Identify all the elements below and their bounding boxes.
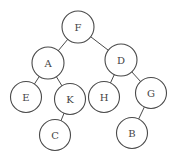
node-label: K xyxy=(66,94,74,105)
tree-node-a: A xyxy=(32,47,64,79)
tree-node-g: G xyxy=(136,78,167,109)
tree-node-f: F xyxy=(62,11,94,43)
node-label: G xyxy=(147,88,155,99)
tree-node-b: B xyxy=(117,118,148,149)
node-label: B xyxy=(128,128,135,139)
node-label: E xyxy=(22,92,29,103)
binary-tree-diagram: FADEKHGCB xyxy=(0,0,175,158)
node-label: C xyxy=(51,130,59,141)
node-label: H xyxy=(100,92,109,103)
tree-node-k: K xyxy=(55,84,86,115)
node-label: F xyxy=(75,22,82,33)
tree-node-h: H xyxy=(89,82,120,113)
tree-node-e: E xyxy=(11,82,42,113)
node-label: D xyxy=(117,55,125,66)
node-label: A xyxy=(43,58,52,69)
tree-node-d: D xyxy=(105,44,137,76)
tree-node-c: C xyxy=(40,120,71,151)
tree-nodes: FADEKHGCB xyxy=(11,11,167,151)
